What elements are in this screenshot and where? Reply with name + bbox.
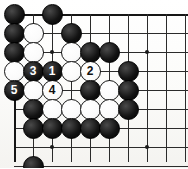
move-number-label: 5: [11, 84, 18, 96]
move-stone-4: 4: [42, 80, 63, 101]
star-point: [50, 50, 54, 54]
star-point: [145, 50, 149, 54]
go-board-grid: 31254: [0, 0, 188, 168]
move-number-label: 1: [49, 65, 56, 77]
grid-line-vertical: [166, 14, 167, 162]
stone-white: [23, 80, 44, 101]
star-point: [145, 145, 149, 149]
move-number-label: 2: [87, 65, 94, 77]
stone-black: [42, 118, 63, 139]
stone-black: [42, 4, 63, 25]
stone-white: [61, 99, 82, 120]
move-stone-1: 1: [42, 61, 63, 82]
move-stone-5: 5: [4, 80, 25, 101]
stone-white: [4, 61, 25, 82]
stone-black: [99, 42, 120, 63]
stone-black: [99, 118, 120, 139]
stone-black: [23, 118, 44, 139]
move-number-label: 3: [30, 65, 37, 77]
stone-black: [4, 42, 25, 63]
grid-line-horizontal: [14, 147, 188, 148]
stone-white: [61, 42, 82, 63]
stone-black: [118, 61, 139, 82]
grid-line-horizontal: [14, 14, 188, 16]
stone-black: [4, 23, 25, 44]
move-stone-2: 2: [80, 61, 101, 82]
stone-black: [118, 99, 139, 120]
stone-black: [4, 4, 25, 25]
stone-white: [23, 42, 44, 63]
stone-black: [23, 99, 44, 120]
stone-white: [80, 99, 101, 120]
stone-black: [80, 80, 101, 101]
move-number-label: 4: [49, 84, 56, 96]
stone-black: [61, 23, 82, 44]
star-point: [50, 145, 54, 149]
stone-black: [61, 118, 82, 139]
stone-black: [23, 156, 44, 169]
go-diagram: 31254: [0, 0, 188, 168]
stone-white: [61, 61, 82, 82]
stone-black: [80, 42, 101, 63]
stone-white: [99, 80, 120, 101]
stone-black: [80, 118, 101, 139]
grid-line-vertical: [147, 14, 148, 162]
stone-black: [118, 80, 139, 101]
grid-line-vertical: [185, 14, 186, 162]
stone-white: [23, 23, 44, 44]
move-stone-3: 3: [23, 61, 44, 82]
stone-white: [99, 99, 120, 120]
stone-white: [42, 99, 63, 120]
